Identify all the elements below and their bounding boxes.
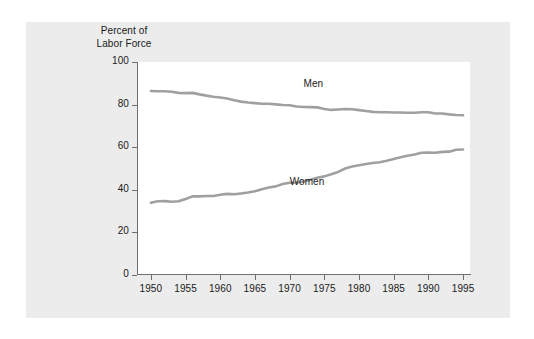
y-tick-mark: [132, 275, 137, 276]
series-label-men: Men: [304, 78, 324, 89]
x-tick-mark: [428, 275, 429, 280]
plot-wrapper: 020406080100 195019551960196519701975198…: [137, 62, 470, 275]
x-tick-mark: [255, 275, 256, 280]
y-tick-label: 20: [118, 225, 129, 236]
y-tick-label: 0: [123, 268, 129, 279]
x-tick-mark: [463, 275, 464, 280]
x-tick-label: 1995: [443, 283, 483, 294]
x-tick-mark: [394, 275, 395, 280]
x-tick-mark: [151, 275, 152, 280]
y-tick-label: 40: [118, 183, 129, 194]
x-tick-mark: [290, 275, 291, 280]
x-tick-mark: [186, 275, 187, 280]
y-axis-title-line2: Labor Force: [76, 37, 172, 50]
x-tick-mark: [324, 275, 325, 280]
y-tick-label: 100: [112, 55, 129, 66]
x-tick-mark: [220, 275, 221, 280]
y-axis-title: Percent of Labor Force: [76, 24, 172, 50]
chart-series-lines: [137, 62, 470, 275]
y-tick-label: 80: [118, 98, 129, 109]
x-tick-mark: [359, 275, 360, 280]
series-label-women: Women: [290, 176, 325, 187]
chart-figure: Percent of Labor Force 020406080100 1950…: [26, 22, 510, 318]
y-tick-label: 60: [118, 140, 129, 151]
series-line-men: [151, 91, 463, 115]
y-axis-title-line1: Percent of: [76, 24, 172, 37]
